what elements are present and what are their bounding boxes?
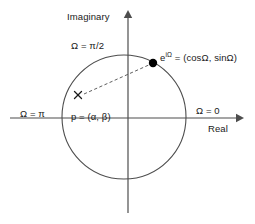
imaginary-axis-label: Imaginary [67, 12, 110, 22]
point-on-circle-marker [149, 59, 157, 67]
point-p-marker-icon [75, 92, 82, 99]
euler-formula-label: eiΩ = (cosΩ, sinΩ) [160, 53, 237, 63]
omega-half-pi-label: Ω = π/2 [71, 41, 104, 51]
real-axis-label: Real [208, 124, 228, 134]
euler-exponent: iΩ [165, 51, 172, 58]
real-axis-arrow-icon [236, 114, 244, 122]
point-p-label: p = (α, β) [71, 112, 111, 122]
radius-dashed-line [84, 64, 151, 94]
euler-rest: = (cosΩ, sinΩ) [172, 52, 237, 63]
imaginary-axis-arrow-icon [124, 10, 132, 18]
complex-plane-figure: Imaginary Ω = π/2 eiΩ = (cosΩ, sinΩ) Ω =… [0, 0, 255, 224]
omega-zero-label: Ω = 0 [196, 106, 220, 116]
omega-pi-label: Ω = π [20, 109, 45, 119]
imaginary-axis [124, 10, 132, 213]
